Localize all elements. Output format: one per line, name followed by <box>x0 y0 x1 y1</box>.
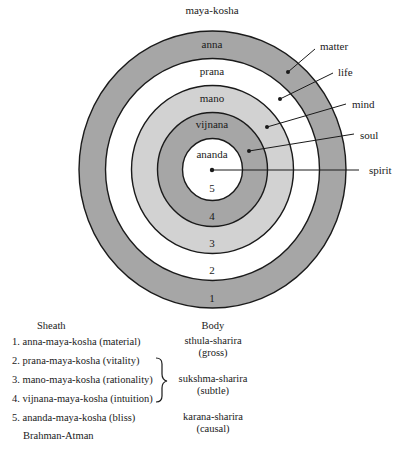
sheath-row-3: 3. mano-maya-kosha (rationality) <box>12 374 153 386</box>
ring-name-mano: mano <box>200 92 225 104</box>
ring-number-2: 2 <box>209 264 215 276</box>
ring-number-3: 3 <box>209 237 215 249</box>
sheath-row-2: 2. prana-maya-kosha (vitality) <box>12 355 139 367</box>
body-sthula-name: sthula-sharira <box>184 335 241 347</box>
ring-name-ananda: ananda <box>196 148 227 160</box>
callout-label-mind: mind <box>352 98 375 110</box>
diagram-title: maya-kosha <box>185 4 238 16</box>
ring-number-1: 1 <box>209 292 215 304</box>
body-karana-gloss: (causal) <box>196 423 229 435</box>
body-sukshma-name: sukshma-sharira <box>179 373 248 385</box>
ring-name-anna: anna <box>202 38 223 50</box>
sheath-footer: Brahman-Atman <box>23 430 94 442</box>
body-sthula-gloss: (gross) <box>198 347 227 359</box>
body-sukshma-gloss: (subtle) <box>197 385 229 397</box>
ring-number-4: 4 <box>209 210 215 222</box>
sheath-row-5: 5. ananda-maya-kosha (bliss) <box>12 412 135 424</box>
sheath-row-4: 4. vijnana-maya-kosha (intuition) <box>12 393 153 405</box>
callout-label-life: life <box>338 66 353 78</box>
ring-number-5: 5 <box>209 182 215 194</box>
ring-name-prana: prana <box>200 65 225 77</box>
body-karana-name: karana-sharira <box>183 411 243 423</box>
ring-name-vijnana: vijnana <box>196 118 228 130</box>
sheath-header: Sheath <box>37 320 66 332</box>
callout-label-matter: matter <box>320 40 348 52</box>
sheath-row-1: 1. anna-maya-kosha (material) <box>12 336 141 348</box>
body-header: Body <box>202 320 225 332</box>
callout-label-spirit: spirit <box>369 164 392 176</box>
brace-icon <box>156 358 167 402</box>
callout-label-soul: soul <box>360 129 378 141</box>
